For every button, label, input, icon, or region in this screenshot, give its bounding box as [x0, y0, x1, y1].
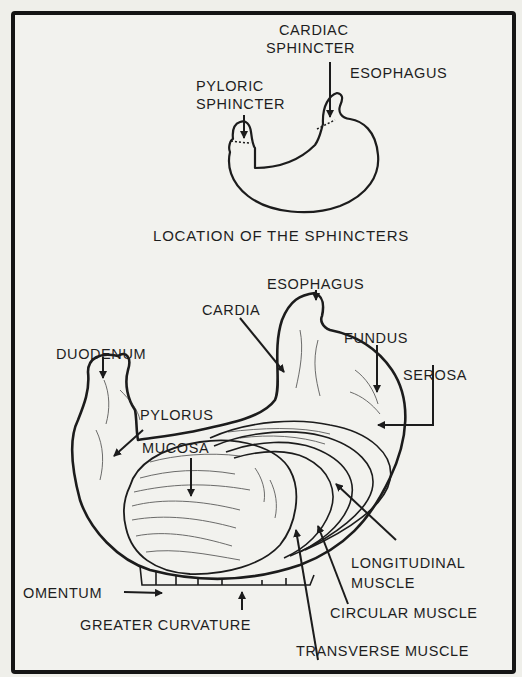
label-esophagus-top: ESOPHAGUS — [350, 65, 447, 81]
caption-location-of-sphincters: LOCATION OF THE SPHINCTERS — [153, 228, 409, 244]
label-pyloric-sphincter-line1: PYLORIC — [196, 78, 264, 94]
label-longitudinal-muscle-line2: MUSCLE — [351, 575, 415, 591]
label-fundus: FUNDUS — [344, 330, 408, 346]
label-duodenum: DUODENUM — [56, 346, 146, 362]
label-greater-curvature: GREATER CURVATURE — [80, 617, 251, 633]
label-serosa: SEROSA — [403, 367, 467, 383]
label-longitudinal-muscle-line1: LONGITUDINAL — [351, 555, 465, 571]
label-cardia: CARDIA — [202, 302, 260, 318]
label-cardiac-sphincter-line1: CARDIAC — [279, 22, 348, 38]
label-pylorus: PYLORUS — [140, 407, 214, 423]
texture-hatching — [96, 330, 380, 560]
label-circular-muscle: CIRCULAR MUSCLE — [330, 605, 478, 621]
mucosa-body — [124, 440, 296, 574]
label-pyloric-sphincter-line2: SPHINCTER — [196, 96, 285, 112]
label-omentum: OMENTUM — [23, 585, 102, 601]
label-esophagus-bottom: ESOPHAGUS — [267, 276, 364, 292]
label-cardiac-sphincter-line2: SPHINCTER — [266, 40, 355, 56]
label-mucosa: MUCOSA — [142, 440, 209, 456]
label-transverse-muscle: TRANSVERSE MUSCLE — [296, 643, 469, 659]
